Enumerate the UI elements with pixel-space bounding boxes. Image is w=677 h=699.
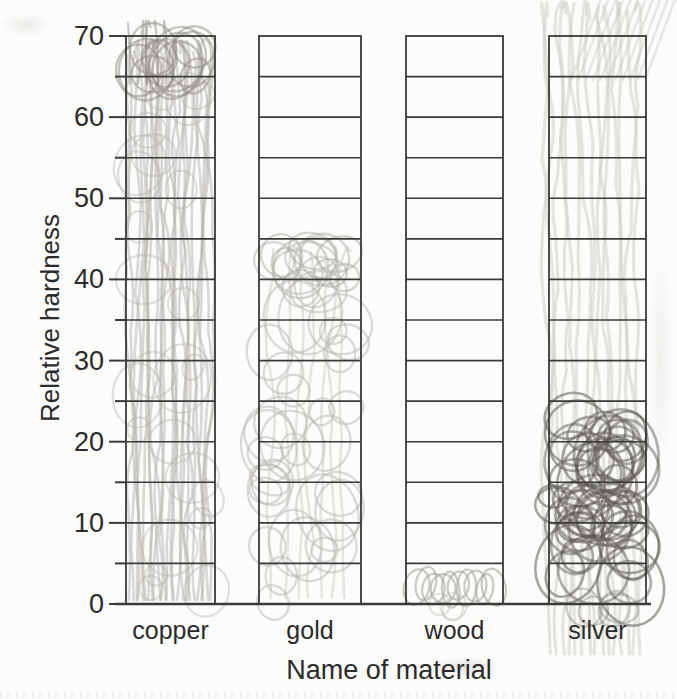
bar-column-wood (406, 36, 503, 604)
scan-noise-band (0, 692, 677, 698)
y-axis-title: Relative hardness (35, 214, 66, 422)
x-axis-title: Name of material (286, 655, 492, 686)
y-tick-label-50: 50 (34, 183, 104, 213)
y-tick-label-20: 20 (34, 427, 104, 457)
y-tick-label-10: 10 (34, 508, 104, 538)
worksheet-page: Relative hardness 706050403020100 copper… (0, 0, 677, 699)
category-label-silver: silver (528, 615, 668, 645)
category-label-copper: copper (101, 615, 241, 645)
y-tick-label-0: 0 (34, 589, 104, 619)
category-label-gold: gold (240, 615, 380, 645)
y-axis-ticks (109, 36, 126, 604)
category-label-wood: wood (385, 615, 525, 645)
y-tick-label-70: 70 (34, 21, 104, 51)
y-tick-label-30: 30 (34, 346, 104, 376)
y-tick-label-40: 40 (34, 264, 104, 294)
y-tick-label-60: 60 (34, 102, 104, 132)
